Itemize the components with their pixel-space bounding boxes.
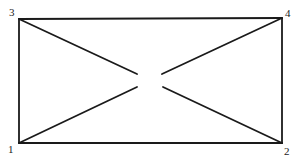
vertex-label-1: 1 — [8, 143, 14, 155]
partial-diagonal-from-1 — [19, 87, 137, 143]
partial-diagonal-from-4 — [162, 18, 282, 74]
vertex-labels: 1234 — [8, 6, 291, 157]
partial-diagonal-from-2 — [163, 87, 282, 143]
partial-diagonal-from-3 — [19, 19, 137, 74]
vertex-label-2: 2 — [284, 145, 290, 157]
graph-diagram: 1234 — [0, 0, 304, 158]
partial-diagonals — [19, 18, 282, 143]
vertex-label-4: 4 — [285, 7, 291, 19]
vertex-label-3: 3 — [9, 6, 15, 18]
edge-3-4 — [19, 18, 282, 19]
